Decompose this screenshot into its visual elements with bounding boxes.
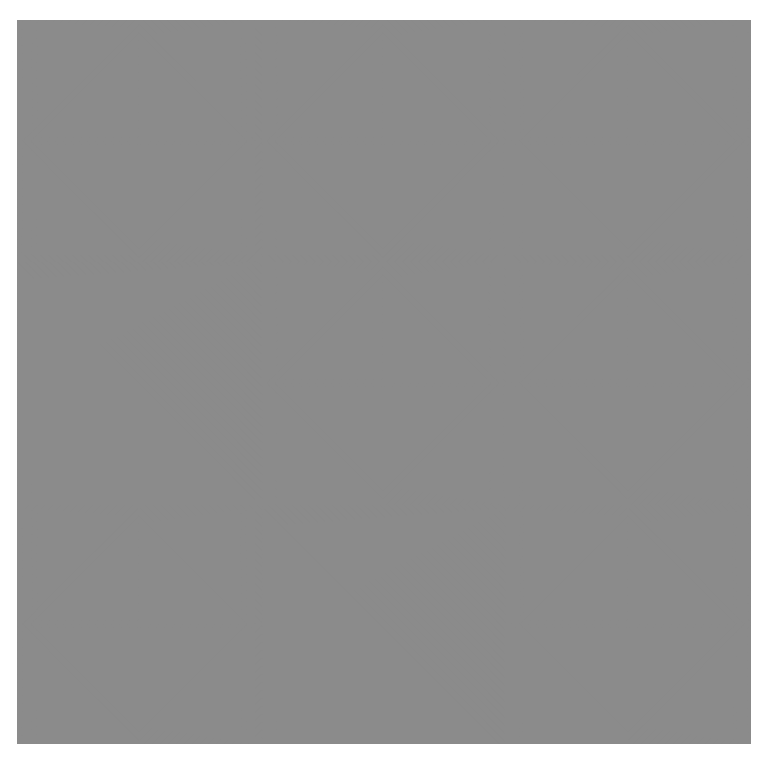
diamond-pattern-canvas	[17, 20, 751, 744]
op-art-artwork	[17, 20, 751, 744]
